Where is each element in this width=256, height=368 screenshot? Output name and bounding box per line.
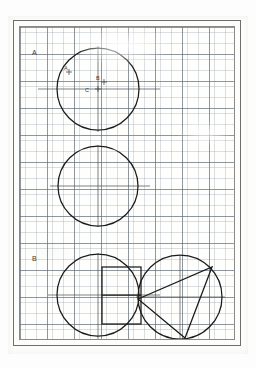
- worksheet-page: A B A B C: [0, 0, 256, 368]
- figure-circle-with-triangle: [136, 255, 225, 340]
- section-label-b: B: [32, 255, 37, 262]
- figure-circle-with-rectangle: [48, 253, 160, 339]
- point-marker-b: [101, 79, 107, 85]
- point-label-c: C: [85, 87, 89, 93]
- point-label-b: B: [96, 75, 100, 81]
- point-marker-c: [95, 86, 101, 92]
- geometry-drawings: [20, 27, 235, 340]
- grid-area: A B A B C: [19, 26, 235, 340]
- section-label-a: A: [32, 49, 37, 56]
- point-label-a: A: [64, 65, 68, 71]
- figure-circle-middle-plain: [50, 145, 150, 227]
- figure-circle-top-with-points: [38, 46, 160, 132]
- inscribed-triangle: [138, 267, 212, 338]
